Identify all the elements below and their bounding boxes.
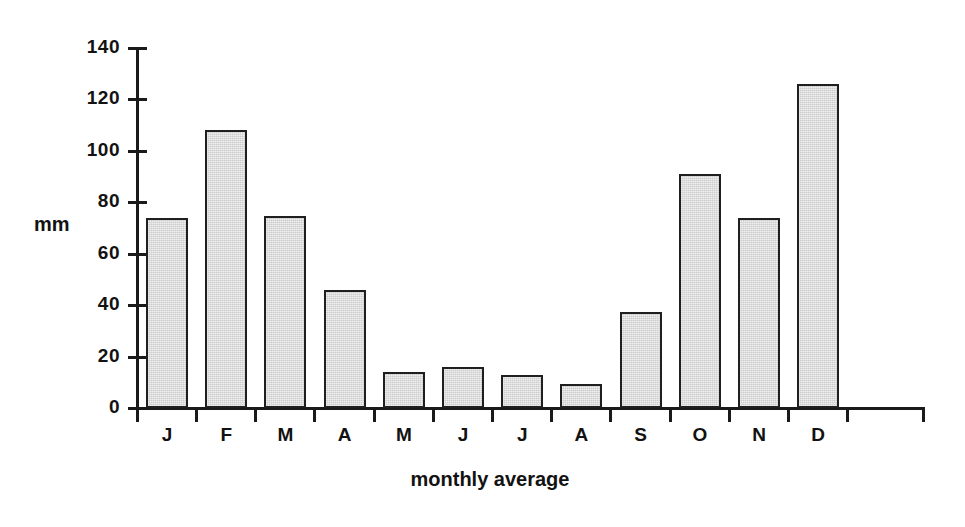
bar — [501, 375, 543, 408]
y-tick-label: 20 — [40, 345, 120, 367]
y-axis-title: mm — [34, 213, 70, 236]
x-axis-title: monthly average — [340, 468, 640, 491]
x-tick-label: O — [679, 424, 721, 446]
x-tick-mark — [609, 407, 612, 422]
bar — [324, 290, 366, 408]
bar — [679, 174, 721, 408]
bar — [442, 367, 484, 408]
y-tick-mark — [128, 150, 147, 153]
bar — [264, 216, 306, 408]
x-tick-mark — [787, 407, 790, 422]
y-tick-mark — [128, 47, 147, 50]
bar — [797, 84, 839, 408]
x-tick-mark — [373, 407, 376, 422]
y-tick-mark — [128, 98, 147, 101]
x-tick-label: M — [383, 424, 425, 446]
y-tick-label: 80 — [40, 190, 120, 212]
x-tick-label: A — [560, 424, 602, 446]
y-tick-label: 100 — [40, 139, 120, 161]
x-tick-label: M — [264, 424, 306, 446]
bar — [205, 130, 247, 408]
bar — [560, 384, 602, 408]
y-tick-label: 0 — [40, 396, 120, 418]
y-tick-mark — [128, 304, 147, 307]
y-tick-label: 40 — [40, 293, 120, 315]
bar — [620, 312, 662, 408]
x-tick-label: A — [324, 424, 366, 446]
x-tick-label: J — [146, 424, 188, 446]
y-tick-mark — [128, 201, 147, 204]
x-tick-label: S — [620, 424, 662, 446]
bar — [383, 372, 425, 408]
x-tick-mark — [136, 407, 139, 422]
x-tick-mark — [728, 407, 731, 422]
plot-area: 140120100806040200 JFMAMJJASOND mm month… — [0, 0, 965, 527]
x-tick-label: F — [205, 424, 247, 446]
x-tick-mark — [922, 407, 925, 422]
x-tick-mark — [491, 407, 494, 422]
x-tick-label: D — [797, 424, 839, 446]
x-tick-mark — [195, 407, 198, 422]
chart-figure: 140120100806040200 JFMAMJJASOND mm month… — [0, 0, 965, 527]
x-tick-mark — [846, 407, 849, 422]
y-tick-label: 140 — [40, 36, 120, 58]
x-tick-label: N — [738, 424, 780, 446]
bar — [146, 218, 188, 408]
y-tick-label: 60 — [40, 242, 120, 264]
x-tick-label: J — [501, 424, 543, 446]
y-tick-mark — [128, 253, 147, 256]
x-tick-mark — [669, 407, 672, 422]
x-tick-mark — [254, 407, 257, 422]
x-tick-mark — [550, 407, 553, 422]
x-tick-label: J — [442, 424, 484, 446]
y-tick-label: 120 — [40, 87, 120, 109]
x-tick-mark — [432, 407, 435, 422]
bar — [738, 218, 780, 408]
x-tick-mark — [313, 407, 316, 422]
y-tick-mark — [128, 356, 147, 359]
